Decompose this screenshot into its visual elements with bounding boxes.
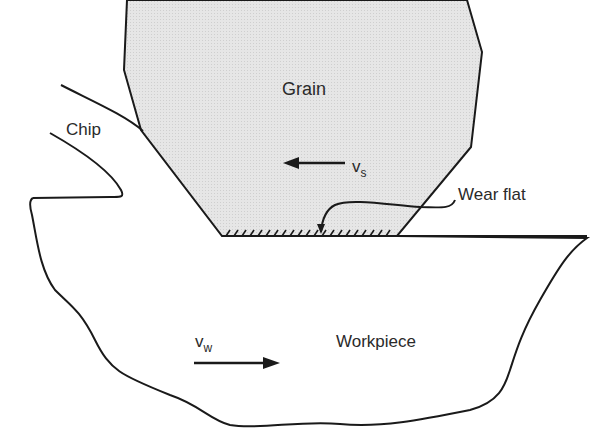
vw-subscript: w: [204, 341, 213, 355]
grinding-diagram: Grain Chip Wear flat Workpiece vs vw: [0, 0, 612, 446]
vw-label: vw: [195, 333, 212, 350]
vw-main: v: [195, 332, 204, 351]
vs-subscript: s: [361, 166, 367, 180]
vs-main: v: [352, 157, 361, 176]
workpiece-label: Workpiece: [336, 333, 416, 350]
chip-lower-edge: [33, 133, 122, 198]
grain-shape: [124, 0, 482, 236]
wear-flat-label: Wear flat: [458, 186, 526, 203]
diagram-graphics: [0, 0, 612, 446]
chip-label: Chip: [66, 121, 101, 138]
arrow-right-icon: [263, 357, 280, 369]
grain-label: Grain: [282, 80, 326, 98]
vs-label: vs: [352, 158, 367, 175]
